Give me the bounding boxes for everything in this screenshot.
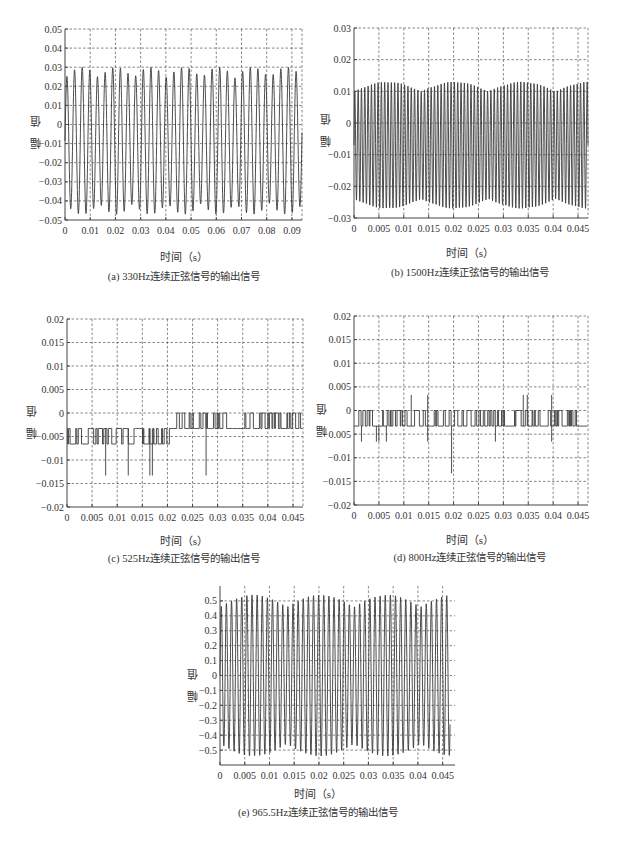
y-tick-label: −0.4 [199,730,217,741]
y-axis-label-c: 幅 值 [24,402,40,439]
x-axis-label-a: 时间（s） [160,248,208,264]
y-tick-label: 0.4 [205,610,218,621]
x-tick-label: 0.005 [233,770,256,781]
y-tick-label: −0.2 [199,700,217,711]
y-tick-label: −0.3 [199,715,217,726]
y-tick-label: −0.5 [199,745,217,756]
x-axis-label-e: 时间（s） [294,785,342,801]
caption-c: (c) 525Hz连续正弦信号的输出信号 [108,550,260,565]
y-tick-label: 0.1 [205,655,218,666]
x-tick-label: 0.025 [332,770,355,781]
x-tick-label: 0.015 [283,770,306,781]
x-axis-label-b: 时间（s） [446,244,494,260]
y-tick-label: 0 [212,670,217,681]
y-tick-label: −0.1 [199,685,217,696]
y-tick-label: 0.5 [205,595,218,606]
x-tick-label: 0 [218,770,223,781]
x-tick-label: 0.03 [360,770,378,781]
y-axis-label-e: 幅 值 [185,665,201,702]
x-tick-label: 0.01 [261,770,279,781]
y-tick-label: 0.2 [205,640,218,651]
caption-a: (a) 330Hz连续正弦信号的输出信号 [108,268,260,283]
y-axis-label-d: 幅 值 [314,400,330,437]
caption-b: (b) 1500Hz连续正弦信号的输出信号 [391,264,549,279]
caption-d: (d) 800Hz连续正弦信号的输出信号 [394,549,547,564]
chart-svg-e: 0.50.40.30.20.10−0.1−0.2−0.3−0.4−0.500.0… [0,0,618,842]
caption-e: (e) 965.5Hz连续正弦信号的输出信号 [238,804,398,819]
x-axis-label-d: 时间（s） [446,531,494,547]
x-axis-label-c: 时间（s） [160,532,208,548]
y-axis-label-b: 幅 值 [318,110,334,147]
y-axis-label-a: 幅 值 [28,112,44,149]
x-tick-label: 0.04 [409,770,427,781]
x-tick-label: 0.045 [431,770,454,781]
x-tick-label: 0.02 [310,770,328,781]
x-tick-label: 0.035 [382,770,405,781]
y-tick-label: 0.3 [205,625,218,636]
